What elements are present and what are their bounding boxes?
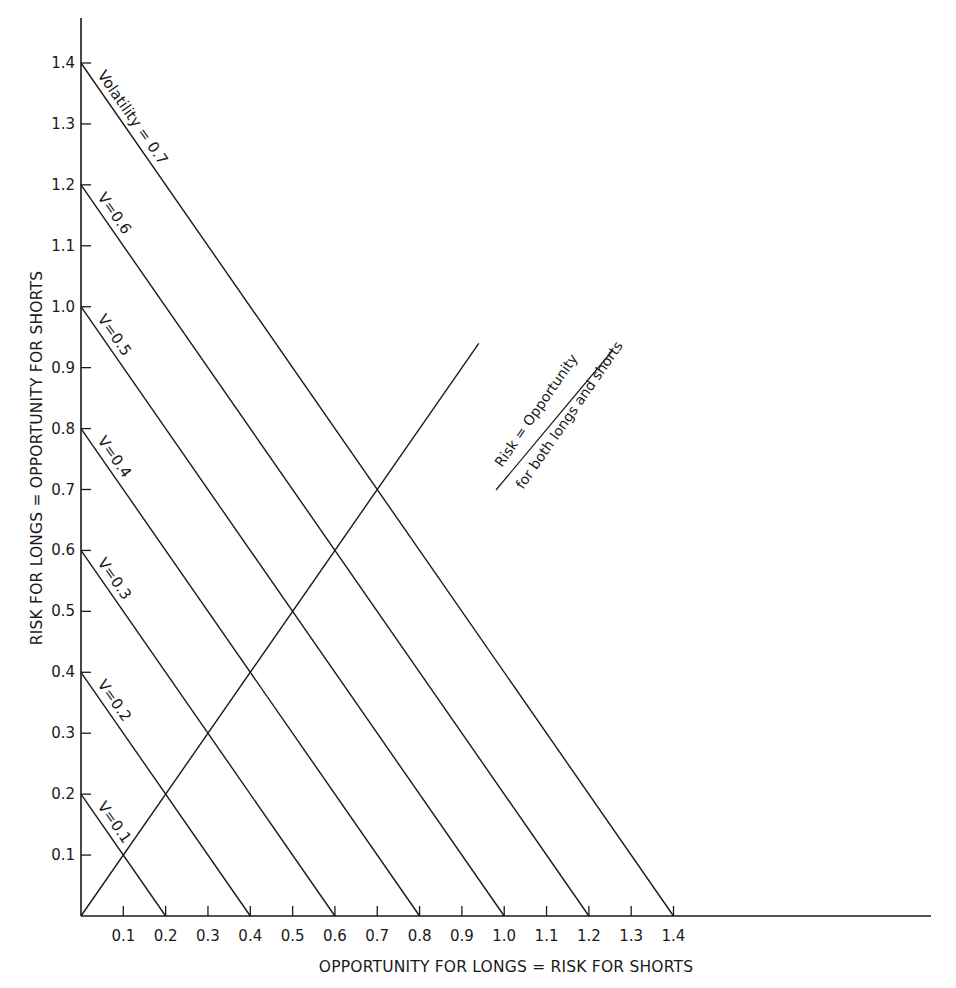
x-tick-label: 0.6 — [323, 927, 347, 945]
x-tick-label: 0.1 — [111, 927, 135, 945]
y-tick-label: 0.4 — [51, 663, 75, 681]
y-tick-label: 1.0 — [51, 298, 75, 316]
y-tick-label: 1.4 — [51, 54, 75, 72]
y-tick-label: 0.8 — [51, 420, 75, 438]
x-tick-label: 0.2 — [154, 927, 178, 945]
x-tick-label: 1.0 — [492, 927, 516, 945]
x-tick-label: 0.8 — [408, 927, 432, 945]
x-tick-label: 0.9 — [450, 927, 474, 945]
volatility-chart: 0.10.20.30.40.50.60.70.80.91.01.11.21.31… — [0, 0, 956, 988]
x-axis-title: OPPORTUNITY FOR LONGS = RISK FOR SHORTS — [319, 958, 694, 976]
y-tick-label: 0.5 — [51, 602, 75, 620]
y-tick-label: 0.6 — [51, 541, 75, 559]
x-tick-label: 0.4 — [238, 927, 262, 945]
x-tick-label: 1.1 — [535, 927, 559, 945]
y-tick-label: 1.1 — [51, 237, 75, 255]
y-tick-label: 0.9 — [51, 359, 75, 377]
tick-marks: 0.10.20.30.40.50.60.70.80.91.01.11.21.31… — [51, 54, 685, 945]
y-tick-label: 1.3 — [51, 115, 75, 133]
x-tick-label: 0.3 — [196, 927, 220, 945]
volatility-line-label: Volatility = 0.7 — [94, 67, 172, 168]
x-tick-label: 0.5 — [281, 927, 305, 945]
y-tick-label: 0.1 — [51, 846, 75, 864]
x-tick-label: 0.7 — [365, 927, 389, 945]
x-tick-label: 1.4 — [662, 927, 686, 945]
y-tick-label: 1.2 — [51, 176, 75, 194]
y-tick-label: 0.3 — [51, 724, 75, 742]
x-tick-label: 1.3 — [619, 927, 643, 945]
y-axis-title: RISK FOR LONGS = OPPORTUNITY FOR SHORTS — [28, 271, 46, 646]
volatility-lines — [81, 63, 674, 916]
risk-equals-opportunity-line — [81, 343, 479, 916]
line-labels: V=0.1V=0.2V=0.3V=0.4V=0.5V=0.6Volatility… — [94, 67, 626, 847]
y-tick-label: 0.2 — [51, 785, 75, 803]
x-tick-label: 1.2 — [577, 927, 601, 945]
y-tick-label: 0.7 — [51, 481, 75, 499]
